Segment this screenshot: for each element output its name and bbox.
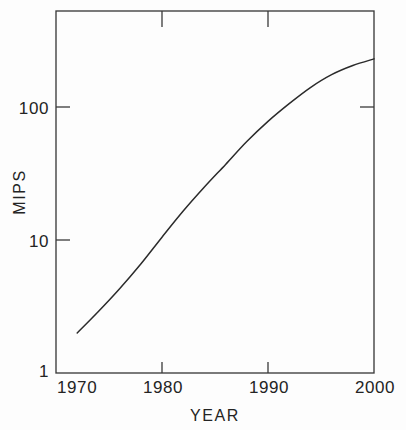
- x-axis-ticks-top: [162, 11, 268, 27]
- x-tick-label-1990: 1990: [249, 378, 289, 397]
- y-tick-label-100: 100: [19, 99, 49, 118]
- x-tick-label-1970: 1970: [57, 378, 97, 397]
- y-tick-label-1: 1: [39, 362, 49, 381]
- y-axis-title: MIPS: [11, 169, 28, 215]
- y-tick-label-10: 10: [29, 232, 49, 251]
- x-tick-label-2000: 2000: [355, 378, 395, 397]
- mips-vs-year-line-chart: 100 10 1 1970 1980 1990 2000 MIPS YEAR: [0, 0, 406, 430]
- x-axis-ticks: [162, 362, 268, 373]
- x-tick-label-1980: 1980: [143, 378, 183, 397]
- chart-screenshot: 100 10 1 1970 1980 1990 2000 MIPS YEAR: [0, 0, 406, 430]
- x-axis-title: YEAR: [190, 407, 240, 424]
- plot-frame: [56, 11, 374, 373]
- y-axis-ticks: [56, 107, 70, 240]
- mips-growth-curve: [77, 59, 374, 333]
